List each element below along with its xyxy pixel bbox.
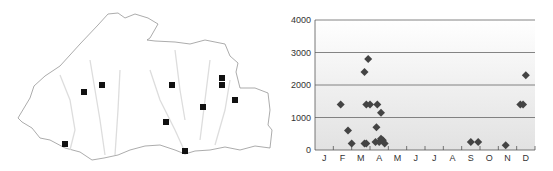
- site-marker: [182, 148, 188, 154]
- y-tick-label: 4000: [291, 15, 311, 25]
- site-marker: [62, 141, 68, 147]
- x-tick-label: M: [357, 153, 365, 163]
- site-marker: [81, 89, 87, 95]
- x-tick-label: M: [394, 153, 402, 163]
- site-marker: [169, 82, 175, 88]
- bhutan-map: [0, 0, 280, 171]
- x-tick-label: J: [432, 153, 437, 163]
- x-tick-label: N: [504, 153, 511, 163]
- x-tick-label: A: [376, 153, 382, 163]
- x-tick-label: O: [486, 153, 493, 163]
- x-tick-label: A: [449, 153, 455, 163]
- x-tick-label: J: [322, 153, 327, 163]
- country-outline: [18, 13, 272, 160]
- site-marker: [219, 82, 225, 88]
- x-tick-label: D: [523, 153, 530, 163]
- x-tick-label: S: [468, 153, 474, 163]
- x-tick-label: J: [414, 153, 419, 163]
- y-tick-label: 0: [306, 145, 311, 155]
- site-marker: [200, 104, 206, 110]
- y-tick-label: 2000: [291, 80, 311, 90]
- x-tick-label: F: [340, 153, 346, 163]
- site-marker: [232, 97, 238, 103]
- y-axis-ticks: 01000200030004000: [291, 15, 311, 155]
- site-marker: [99, 82, 105, 88]
- site-marker: [219, 75, 225, 81]
- y-tick-label: 3000: [291, 48, 311, 58]
- site-marker: [163, 119, 169, 125]
- scatter-chart: 01000200030004000 JFMAMJJASOND: [280, 0, 553, 171]
- y-tick-label: 1000: [291, 113, 311, 123]
